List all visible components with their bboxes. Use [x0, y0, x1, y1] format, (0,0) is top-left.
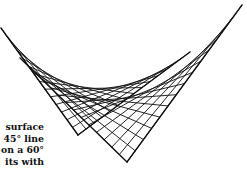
- caption-text: surface 45° line on a 60° its with: [0, 121, 44, 167]
- diagram-stage: surface 45° line on a 60° its with: [0, 0, 247, 170]
- caption-line: surface: [0, 121, 44, 133]
- caption-line: its with: [0, 156, 44, 168]
- chord-line: [119, 16, 233, 154]
- chord-line: [127, 5, 242, 162]
- caption-line: 45° line: [0, 133, 44, 145]
- caption-line: on a 60°: [0, 144, 44, 156]
